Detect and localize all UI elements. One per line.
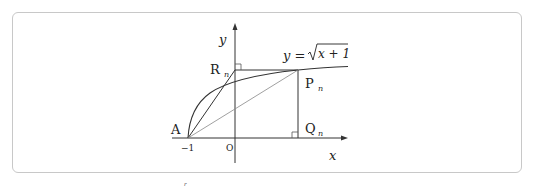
curve-sqrt [188, 67, 348, 139]
curve-equation-radicand: x + 1 [318, 47, 350, 61]
curve-equation-lhs: y = [282, 48, 310, 63]
point-label-Q: Q [305, 121, 316, 136]
point-label-P: P [305, 76, 314, 91]
x-axis-label: x [329, 148, 337, 163]
point-label-P-sub: n [318, 84, 323, 93]
diagram-canvas: y x O −1 A R n P n Q n y = x + 1 r [0, 0, 535, 189]
x-axis-arrow-icon [341, 136, 348, 141]
y-axis-label: y [218, 32, 227, 47]
right-angle-Q-icon [292, 132, 298, 138]
point-label-Q-sub: n [318, 129, 323, 138]
point-label-A: A [170, 122, 181, 137]
stray-mark: r [184, 181, 187, 187]
segment-AP [188, 70, 298, 138]
origin-label: O [226, 143, 233, 153]
point-label-R-sub: n [224, 70, 229, 79]
y-axis-arrow-icon [233, 23, 238, 30]
segment-AR [188, 70, 235, 138]
tick-label-neg-one: −1 [181, 143, 194, 153]
point-label-R: R [210, 62, 221, 77]
right-angle-R-icon [235, 64, 241, 70]
